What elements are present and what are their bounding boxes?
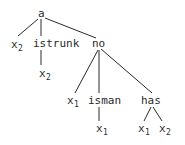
node-isman-x1: x 1 (96, 122, 108, 137)
node-label: x (11, 38, 18, 51)
node-label: x (138, 122, 145, 135)
edge-has-x2 (153, 107, 162, 121)
node-subscript: 1 (74, 100, 79, 109)
tree-nodes: a x 2 istrunk no x 2 x 1 isman has x 1 x… (11, 7, 171, 137)
edge-a-no (45, 18, 96, 38)
node-istrunk-x2: x 2 (39, 67, 51, 82)
node-subscript: 1 (103, 128, 108, 137)
edge-a-x2 (18, 19, 38, 36)
edge-no-has (101, 49, 152, 93)
node-subscript: 2 (166, 128, 171, 137)
node-x2-left: x 2 (11, 38, 23, 53)
node-label: x (159, 122, 166, 135)
node-no-x1: x 1 (67, 94, 79, 109)
node-a: a (38, 7, 45, 20)
node-istrunk: istrunk (33, 37, 80, 50)
node-has: has (141, 94, 161, 107)
parse-tree-diagram: a x 2 istrunk no x 2 x 1 isman has x 1 x… (0, 0, 185, 145)
node-subscript: 1 (145, 128, 150, 137)
node-subscript: 2 (46, 73, 51, 82)
edge-has-x1 (144, 107, 151, 121)
node-label: x (39, 67, 46, 80)
node-label: x (67, 94, 74, 107)
node-label: x (96, 122, 103, 135)
edge-no-x1 (75, 50, 98, 93)
node-isman: isman (88, 94, 121, 107)
node-has-x2: x 2 (159, 122, 171, 137)
node-has-x1: x 1 (138, 122, 150, 137)
node-no: no (92, 37, 105, 50)
node-subscript: 2 (18, 44, 23, 53)
